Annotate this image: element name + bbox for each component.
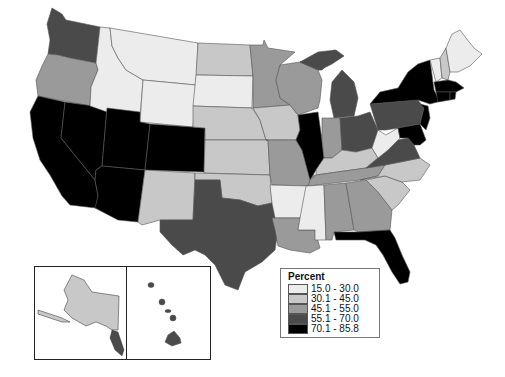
legend-label: 70.1 - 85.8 xyxy=(311,323,359,334)
legend-title: Percent xyxy=(288,271,325,282)
legend-swatch xyxy=(288,314,308,324)
state-HI-oahu xyxy=(159,299,165,305)
state-HI-molokai xyxy=(165,310,171,313)
state-AK xyxy=(64,275,119,330)
state-AK-panhandle xyxy=(110,330,124,356)
legend-swatch xyxy=(288,324,308,334)
state-HI-big-island xyxy=(165,331,181,346)
legend-swatch xyxy=(288,304,308,314)
legend-swatch xyxy=(288,294,308,304)
state-HI-kauai xyxy=(148,283,154,288)
legend-row: 70.1 - 85.8 xyxy=(288,324,378,334)
legend: Percent 15.0 - 30.0 30.1 - 45.0 45.1 - 5… xyxy=(280,268,380,338)
state-AK-chain xyxy=(38,310,70,322)
inset-shapes xyxy=(0,0,505,377)
state-HI-maui xyxy=(170,315,176,321)
legend-swatch xyxy=(288,284,308,294)
